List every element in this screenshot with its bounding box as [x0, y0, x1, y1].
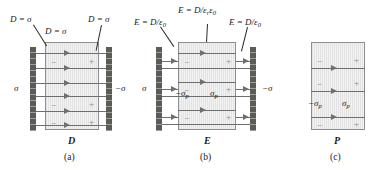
- bound-charge-positive: +: [354, 120, 359, 129]
- left-plate-a: [30, 47, 36, 131]
- bound-charge-positive: +: [89, 57, 94, 66]
- label-E-right: E = D/ε0: [229, 17, 261, 28]
- bound-charge-negative: −: [317, 121, 322, 130]
- panel-caption-a: (a): [64, 152, 75, 162]
- label-E-left-sub: 0: [163, 21, 166, 28]
- label-bound-sigma-negative: −σp: [308, 98, 322, 109]
- field-line-b-inner: [178, 53, 236, 54]
- field-line-b-span: [162, 124, 250, 125]
- leader-line: [241, 27, 248, 51]
- field-line-a: [36, 111, 106, 112]
- arrow-head-icon: [331, 88, 337, 94]
- field-line-a: [36, 53, 106, 54]
- field-arrow-left-gap: [162, 117, 178, 118]
- label-E-left-text: E = D/ε: [134, 17, 163, 27]
- leader-line: [206, 24, 208, 42]
- field-symbol-D: D: [68, 136, 75, 146]
- right-plate-a: [106, 47, 112, 131]
- label-E-center-sub1: r: [207, 9, 210, 16]
- arrow-head-icon: [200, 50, 206, 56]
- field-symbol-E: E: [204, 136, 211, 146]
- arrow-head-icon: [243, 58, 249, 64]
- arrow-head-icon: [64, 122, 70, 128]
- label-bound-sigma-negative-sub: p: [319, 102, 322, 109]
- field-symbol-P: P: [334, 136, 340, 146]
- bound-charge-positive: +: [354, 79, 359, 88]
- arrow-head-icon: [64, 108, 70, 114]
- label-plate-charge-right: −σ: [115, 83, 126, 93]
- label-D-equals-sigma-left: D = σ: [10, 14, 32, 24]
- panel-a: − + − + − + D = σ D = σ D = σ σ −σ D (a): [0, 0, 130, 172]
- label-plate-charge-left: σ: [14, 83, 18, 93]
- field-line-a: [36, 96, 106, 97]
- field-arrow-right-gap: [236, 61, 250, 62]
- field-line-b-inner: [178, 82, 236, 83]
- panel-caption-c: (c): [330, 152, 341, 162]
- arrow-head-icon: [64, 80, 70, 86]
- bound-charge-positive: +: [226, 57, 231, 66]
- polarization-line-c: [311, 68, 365, 69]
- bound-charge-negative: −: [51, 119, 56, 128]
- label-bound-sigma-negative-sub: p: [186, 92, 189, 99]
- field-line-a: [36, 83, 106, 84]
- label-bound-sigma-positive: σp: [210, 88, 218, 99]
- bound-charge-positive: +: [354, 56, 359, 65]
- polarization-line-c: [311, 91, 365, 92]
- bound-charge-positive: +: [226, 113, 231, 122]
- panel-c: − + − + − + −σp σp P (c): [280, 0, 379, 172]
- bound-charge-positive: +: [89, 100, 94, 109]
- bound-charge-negative: −: [51, 58, 56, 67]
- physics-figure: − + − + − + D = σ D = σ D = σ σ −σ D (a): [0, 0, 379, 172]
- label-bound-sigma-negative-text: −σ: [175, 88, 186, 98]
- bound-charge-negative: −: [184, 58, 189, 67]
- bound-charge-positive: +: [226, 85, 231, 94]
- field-line-b-inner: [178, 110, 236, 111]
- label-plate-charge-right: −σ: [262, 83, 273, 93]
- field-line-a: [36, 68, 106, 69]
- arrow-head-icon: [171, 58, 177, 64]
- label-E-right-sub: 0: [258, 21, 261, 28]
- field-arrow-right-gap: [236, 117, 250, 118]
- field-line-b-span: [162, 68, 250, 69]
- bound-charge-negative: −: [317, 57, 322, 66]
- label-bound-sigma-positive: σp: [342, 98, 350, 109]
- bound-charge-negative: −: [317, 80, 322, 89]
- label-plate-charge-left: σ: [142, 83, 146, 93]
- arrow-head-icon: [243, 114, 249, 120]
- label-E-right-text: E = D/ε: [229, 17, 258, 27]
- arrow-head-icon: [331, 114, 337, 120]
- field-line-a: [36, 125, 106, 126]
- label-bound-sigma-positive-sub: p: [214, 92, 217, 99]
- panel-caption-b: (b): [200, 152, 211, 162]
- arrow-head-icon: [64, 65, 70, 71]
- label-bound-sigma-negative-text: −σ: [308, 98, 319, 108]
- field-arrow-right-gap: [236, 89, 250, 90]
- arrow-head-icon: [200, 107, 206, 113]
- bound-charge-negative: −: [51, 101, 56, 110]
- bound-charge-negative: −: [184, 114, 189, 123]
- label-bound-sigma-positive-sub: p: [346, 102, 349, 109]
- label-D-equals-sigma-center: D = σ: [45, 26, 67, 36]
- polarization-line-c: [311, 117, 365, 118]
- panel-b: − + − + − + E = D/ε0 E = D/εrε0 E = D/ε0…: [130, 0, 280, 172]
- label-bound-sigma-negative: −σp: [175, 88, 189, 99]
- arrow-head-icon: [64, 50, 70, 56]
- label-E-center-text: E = D/ε: [178, 5, 207, 15]
- right-plate-b: [250, 47, 256, 131]
- arrow-head-icon: [171, 114, 177, 120]
- arrow-head-icon: [64, 93, 70, 99]
- label-E-left: E = D/ε0: [134, 17, 166, 28]
- bound-charge-positive: +: [89, 118, 94, 127]
- label-E-center: E = D/εrε0: [178, 5, 216, 16]
- arrow-head-icon: [331, 65, 337, 71]
- arrow-head-icon: [200, 79, 206, 85]
- arrow-head-icon: [243, 86, 249, 92]
- label-D-equals-sigma-right: D = σ: [88, 14, 110, 24]
- leader-line: [160, 26, 174, 46]
- field-arrow-left-gap: [162, 61, 178, 62]
- label-E-center-sub2: 0: [213, 9, 216, 16]
